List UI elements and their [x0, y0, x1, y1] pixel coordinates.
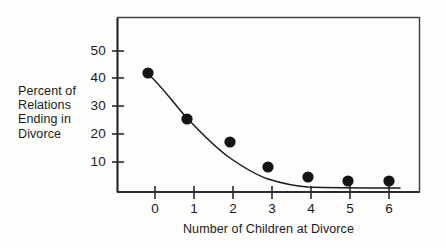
- fit-curve: [148, 74, 400, 188]
- data-point-2: [224, 136, 235, 147]
- data-point-3: [262, 161, 273, 172]
- y-axis-title-line-1: Percent of: [18, 84, 102, 98]
- x-tick-label-3: 3: [262, 201, 282, 216]
- x-tick-label-2: 2: [223, 201, 243, 216]
- y-tick-label-40: 40: [80, 70, 106, 85]
- y-tick-label-20: 20: [80, 126, 106, 141]
- x-tick-label-5: 5: [340, 201, 360, 216]
- data-point-5: [342, 175, 353, 186]
- data-point-6: [383, 175, 394, 186]
- data-point-0: [142, 67, 153, 78]
- y-tick-label-30: 30: [80, 98, 106, 113]
- x-tick-label-6: 6: [379, 201, 399, 216]
- x-tick-label-0: 0: [145, 201, 165, 216]
- data-point-4: [302, 171, 313, 182]
- data-point-1: [181, 113, 192, 124]
- data-points: [142, 67, 394, 186]
- chart-figure: Percent of Relations Ending in Divorce 5…: [0, 0, 447, 248]
- y-tick-label-50: 50: [80, 43, 106, 58]
- x-tick-label-1: 1: [184, 201, 204, 216]
- y-axis-title-line-3: Ending in: [18, 112, 102, 126]
- x-tick-label-4: 4: [301, 201, 321, 216]
- x-axis-title: Number of Children at Divorce: [117, 222, 420, 236]
- y-tick-label-10: 10: [80, 154, 106, 169]
